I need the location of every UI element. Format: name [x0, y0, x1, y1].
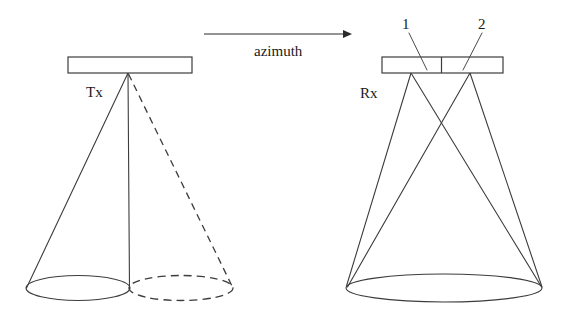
- azimuth-label: azimuth: [254, 44, 302, 59]
- rx1-beam-right: [411, 73, 541, 286]
- rx-element-2-label: 2: [478, 17, 486, 32]
- tx-beam-left-edge: [27, 73, 129, 288]
- tx-footprint-dashed: [129, 276, 233, 301]
- rx1-beam-left: [347, 73, 412, 286]
- azimuth-arrow-group: [204, 30, 352, 38]
- rx2-beam-right: [470, 73, 542, 287]
- rx-element-1-label: 1: [402, 17, 410, 32]
- tx-label: Tx: [86, 85, 103, 100]
- figure-root: azimuth Tx Rx 1 2: [0, 0, 574, 322]
- tx-antenna-panel: [68, 57, 192, 73]
- transmit-group: [26, 57, 233, 301]
- receive-group: [346, 33, 542, 302]
- rx-antenna-panel: [382, 57, 503, 73]
- tx-beam-right-edge-dashed: [129, 74, 233, 286]
- rx-footprint-ellipse: [346, 274, 542, 302]
- tx-boresight-line: [128, 73, 130, 289]
- rx2-beam-left: [348, 73, 471, 287]
- tx-footprint-solid: [26, 276, 130, 301]
- azimuth-arrow-head: [343, 30, 352, 38]
- rx-label: Rx: [360, 86, 378, 101]
